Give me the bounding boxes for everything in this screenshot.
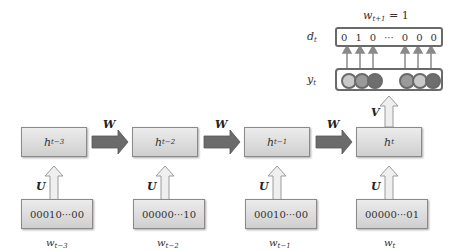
input-word-label-t: wt <box>384 237 395 250</box>
input-vector-t-minus-3: 00010···00 <box>21 199 93 229</box>
u-arrow-2 <box>156 166 174 200</box>
d-value-0: 0 <box>341 32 347 43</box>
d-value-ellipsis: ··· <box>384 32 394 43</box>
u-weight-label-4: U <box>371 180 381 193</box>
input-vector-t-minus-1: 00010···00 <box>245 199 317 229</box>
w-arrow-2 <box>204 130 240 154</box>
u-weight-label-3: U <box>259 180 269 193</box>
w-weight-label-2: W <box>215 118 227 131</box>
hidden-state-t: ht <box>356 127 422 157</box>
d-value-4: 0 <box>402 32 408 43</box>
u-arrow-1 <box>45 166 63 200</box>
v-weight-label: V <box>371 106 380 119</box>
u-weight-label-1: U <box>36 180 46 193</box>
d-value-5: 0 <box>416 32 422 43</box>
input-word-label-t-minus-2: wt−2 <box>157 237 179 250</box>
w-weight-label-3: W <box>327 118 339 131</box>
input-vector-t: 00000···01 <box>356 199 428 229</box>
w-weight-label-1: W <box>103 118 115 131</box>
u-weight-label-2: U <box>147 180 157 193</box>
target-vector-label: dt <box>307 30 317 44</box>
d-value-1: 1 <box>355 32 361 43</box>
target-vector: 0 1 0 ··· 0 0 0 <box>335 27 443 47</box>
d-value-6: 0 <box>431 32 437 43</box>
hidden-state-t-minus-3: ht−3 <box>21 127 87 157</box>
w-arrow-1 <box>92 130 128 154</box>
u-arrow-3 <box>268 166 286 200</box>
target-word-label: wt+1 = 1 <box>363 9 409 23</box>
output-neuron-6 <box>425 73 441 89</box>
output-vector-label: yt <box>307 73 316 87</box>
hidden-state-t-minus-2: ht−2 <box>132 127 198 157</box>
input-vector-t-minus-2: 00000···10 <box>133 199 205 229</box>
hidden-state-t-minus-1: ht−1 <box>244 127 310 157</box>
d-value-2: 0 <box>370 32 376 43</box>
v-arrow <box>380 96 398 127</box>
input-word-label-t-minus-1: wt−1 <box>269 237 291 250</box>
u-arrow-4 <box>380 166 398 200</box>
input-word-label-t-minus-3: wt−3 <box>46 237 68 250</box>
output-vector <box>335 68 443 91</box>
output-neuron-3 <box>367 73 383 89</box>
w-arrow-3 <box>316 130 352 154</box>
